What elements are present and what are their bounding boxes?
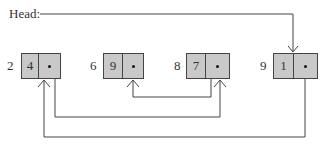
- node-next-pointer: [294, 54, 317, 78]
- node-value: 4: [22, 54, 39, 78]
- node-value: 7: [187, 54, 206, 78]
- node-next-pointer: [206, 54, 229, 78]
- pointer-dot-icon: [216, 65, 219, 68]
- head-label: Head:: [9, 7, 40, 21]
- pointer-dot-icon: [132, 65, 135, 68]
- list-node: 9: [103, 53, 144, 79]
- link-8-to-6: [133, 79, 211, 97]
- node-address: 8: [174, 59, 181, 73]
- link-9-to-2: [44, 79, 305, 137]
- pointer-dot-icon: [304, 65, 307, 68]
- head-pointer-line: [40, 14, 293, 52]
- list-node: 4: [21, 53, 61, 79]
- node-address: 9: [260, 59, 267, 73]
- pointer-dot-icon: [48, 65, 51, 68]
- list-node: 7: [186, 53, 230, 79]
- node-value: 9: [104, 54, 123, 78]
- node-value: 1: [274, 54, 294, 78]
- node-next-pointer: [123, 54, 143, 78]
- node-address: 6: [90, 59, 97, 73]
- node-next-pointer: [39, 54, 60, 78]
- list-node: 1: [273, 53, 318, 79]
- node-address: 2: [7, 59, 14, 73]
